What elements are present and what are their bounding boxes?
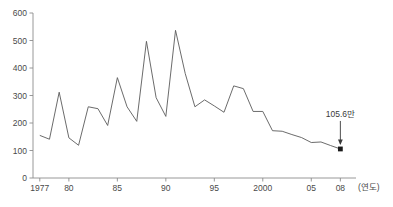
x-tick-label: 05 xyxy=(307,183,317,193)
x-tick-label: 95 xyxy=(210,183,220,193)
y-tick-label: 600 xyxy=(13,8,27,18)
y-tick-label: 0 xyxy=(22,173,27,183)
line-chart: 0100200300400500600 19778085909520000508… xyxy=(0,0,393,207)
x-tick-label: 1977 xyxy=(30,183,49,193)
x-tick-label: 85 xyxy=(113,183,123,193)
y-tick-label: 200 xyxy=(13,118,27,128)
x-axis-unit-label: (연도) xyxy=(358,182,380,192)
end-point-marker xyxy=(338,147,343,152)
y-tick-label: 400 xyxy=(13,63,27,73)
chart-background xyxy=(0,0,393,207)
y-tick-label: 300 xyxy=(13,91,27,101)
y-tick-label: 100 xyxy=(13,146,27,156)
x-tick-label: 08 xyxy=(336,183,346,193)
annotation-label: 105.6만 xyxy=(326,109,355,119)
x-tick-label: 2000 xyxy=(253,183,272,193)
x-tick-label: 80 xyxy=(64,183,74,193)
y-tick-label: 500 xyxy=(13,36,27,46)
chart-canvas: 0100200300400500600 19778085909520000508… xyxy=(0,0,393,207)
x-tick-label: 90 xyxy=(161,183,171,193)
